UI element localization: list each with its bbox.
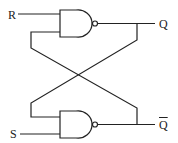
latch-circuit bbox=[0, 0, 178, 143]
q-bar-label: Q bbox=[159, 119, 168, 131]
top-gate-bubble bbox=[93, 21, 98, 26]
r-label: R bbox=[8, 9, 16, 21]
bottom-gate-bubble bbox=[93, 122, 98, 127]
q-label: Q bbox=[159, 18, 168, 30]
q-feedback-wire bbox=[31, 24, 137, 118]
qbar-feedback-wire bbox=[31, 32, 137, 124]
s-label: S bbox=[10, 128, 17, 140]
bottom-nand-gate bbox=[60, 111, 92, 138]
top-nand-gate bbox=[60, 10, 92, 37]
